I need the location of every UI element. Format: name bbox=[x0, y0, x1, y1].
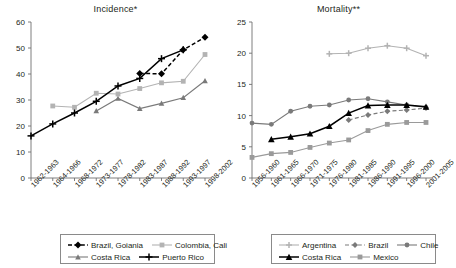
legend-item-brazil[interactable]: Brazil bbox=[344, 240, 388, 250]
legend-marker-cross-icon bbox=[278, 240, 300, 250]
y-axis-tick-label: 50 bbox=[0, 44, 25, 53]
series-chile bbox=[250, 96, 429, 126]
mortality-plot: 05101520251956-19601961-19651966-1970197… bbox=[221, 0, 442, 215]
legend-row: Costa RicaPuerto Rico bbox=[67, 251, 208, 263]
mortality-legend: ArgentinaBrazilChileCosta RicaMexico bbox=[271, 234, 436, 264]
y-axis-tick-label: 5 bbox=[221, 142, 246, 151]
y-axis-tick-label: 10 bbox=[221, 111, 246, 120]
series-mexico bbox=[250, 120, 429, 160]
legend-marker-triangle-icon bbox=[278, 252, 300, 262]
panel-mortality: Mortality** 05101520251956-19601961-1965… bbox=[221, 0, 442, 215]
y-axis-tick-label: 20 bbox=[221, 49, 246, 58]
legend-marker-circle-icon bbox=[396, 240, 418, 250]
y-axis-tick-label: 60 bbox=[0, 18, 25, 27]
legend-label: Mexico bbox=[373, 253, 398, 262]
legend-marker-diamond-icon bbox=[67, 240, 89, 250]
legend-item-chile[interactable]: Chile bbox=[396, 240, 438, 250]
legend-item-costa-rica[interactable]: Costa Rica bbox=[278, 252, 341, 262]
series-argentina bbox=[326, 43, 429, 59]
incidence-legend: Brazil, GoianiaColombia, CaliCosta RicaP… bbox=[60, 234, 215, 264]
y-axis-tick-label: 15 bbox=[221, 80, 246, 89]
legend-item-costa-rica[interactable]: Costa Rica bbox=[67, 252, 130, 262]
legend-label: Colombia, Cali bbox=[175, 241, 227, 250]
legend-marker-cross-icon bbox=[138, 252, 160, 262]
series-brazil-goiania bbox=[136, 34, 208, 77]
series-colombia-cali bbox=[50, 52, 207, 110]
y-axis-tick-label: 30 bbox=[0, 96, 25, 105]
legend-label: Brazil bbox=[368, 241, 388, 250]
y-axis-tick-label: 0 bbox=[221, 174, 246, 183]
legend-item-mexico[interactable]: Mexico bbox=[349, 252, 398, 262]
legend-marker-square-icon bbox=[151, 240, 173, 250]
legend-marker-square-icon bbox=[349, 252, 371, 262]
legend-label: Costa Rica bbox=[302, 253, 341, 262]
legend-label: Costa Rica bbox=[91, 253, 130, 262]
y-axis-tick-label: 40 bbox=[0, 70, 25, 79]
panel-incidence: Incidence* 01020304050601962-19631964-19… bbox=[0, 0, 221, 215]
legend-label: Chile bbox=[420, 241, 438, 250]
legend-row: Brazil, GoianiaColombia, Cali bbox=[67, 239, 208, 251]
legend-label: Brazil, Goiania bbox=[91, 241, 143, 250]
y-axis-tick-label: 0 bbox=[0, 174, 25, 183]
legend-marker-triangle-icon bbox=[67, 252, 89, 262]
y-axis-tick-label: 25 bbox=[221, 18, 246, 27]
series-costa-rica bbox=[93, 78, 207, 113]
incidence-plot: 01020304050601962-19631964-19661968-1972… bbox=[0, 0, 221, 215]
legend-row: Costa RicaMexico bbox=[278, 251, 429, 263]
legend-row: ArgentinaBrazilChile bbox=[278, 239, 429, 251]
legend-item-brazil-goiania[interactable]: Brazil, Goiania bbox=[67, 240, 143, 250]
legend-item-argentina[interactable]: Argentina bbox=[278, 240, 336, 250]
y-axis-tick-label: 10 bbox=[0, 148, 25, 157]
legend-item-colombia-cali[interactable]: Colombia, Cali bbox=[151, 240, 227, 250]
series-puerto-rico bbox=[28, 46, 187, 139]
legend-label: Argentina bbox=[302, 241, 336, 250]
legend-item-puerto-rico[interactable]: Puerto Rico bbox=[138, 252, 204, 262]
y-axis-tick-label: 20 bbox=[0, 122, 25, 131]
legend-marker-diamond-icon bbox=[344, 240, 366, 250]
legend-label: Puerto Rico bbox=[162, 253, 204, 262]
